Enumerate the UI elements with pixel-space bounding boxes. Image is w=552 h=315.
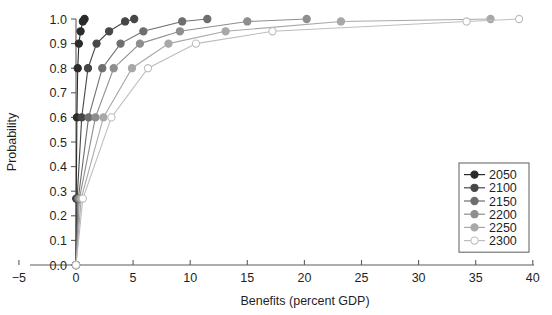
legend-marker-2100 bbox=[471, 184, 478, 191]
data-point-2100-2 bbox=[78, 114, 85, 121]
legend-marker-2150 bbox=[471, 197, 478, 204]
data-point-2200-2 bbox=[92, 114, 99, 121]
legend-label-2250: 2250 bbox=[489, 221, 517, 235]
data-point-2200-6 bbox=[244, 18, 251, 25]
legend-label-2050: 2050 bbox=[489, 168, 517, 182]
x-tick-label: 25 bbox=[355, 271, 369, 285]
data-point-2250-5 bbox=[222, 28, 229, 35]
data-point-2150-3 bbox=[99, 65, 106, 72]
x-tick-label: 20 bbox=[297, 271, 311, 285]
legend-marker-2200 bbox=[471, 211, 478, 218]
data-point-2200-7 bbox=[303, 15, 310, 22]
data-point-2200-4 bbox=[136, 40, 143, 47]
data-point-2100-5 bbox=[106, 28, 113, 35]
data-point-2300-7 bbox=[516, 15, 523, 22]
legend-label-2150: 2150 bbox=[489, 195, 517, 209]
data-point-2050-3 bbox=[74, 65, 81, 72]
data-point-2100-7 bbox=[131, 15, 138, 22]
y-tick-label: 0.7 bbox=[50, 86, 67, 100]
data-point-2300-4 bbox=[192, 40, 199, 47]
series-line-2150 bbox=[76, 19, 207, 265]
figure-caption-strip bbox=[0, 303, 552, 315]
x-tick-label: 30 bbox=[412, 271, 426, 285]
data-point-2200-3 bbox=[110, 65, 117, 72]
data-point-2300-3 bbox=[144, 65, 151, 72]
data-point-2100-6 bbox=[122, 18, 129, 25]
data-point-2200-5 bbox=[176, 28, 183, 35]
data-point-2050-7 bbox=[81, 15, 88, 22]
data-point-2250-4 bbox=[165, 40, 172, 47]
data-point-2150-5 bbox=[140, 28, 147, 35]
y-axis-title: Probability bbox=[5, 112, 19, 171]
x-tick-label: 35 bbox=[469, 271, 483, 285]
x-tick-label: 15 bbox=[240, 271, 254, 285]
data-point-2300-2 bbox=[108, 114, 115, 121]
y-tick-label: 0.5 bbox=[50, 136, 67, 150]
data-point-2250-6 bbox=[337, 18, 344, 25]
legend-label-2100: 2100 bbox=[489, 181, 517, 195]
series-2250 bbox=[72, 15, 494, 268]
legend-marker-2050 bbox=[471, 171, 478, 178]
data-point-2150-4 bbox=[117, 40, 124, 47]
y-tick-label: 0.9 bbox=[50, 37, 67, 51]
x-tick-label: 5 bbox=[130, 271, 137, 285]
series-line-2300 bbox=[76, 19, 519, 265]
data-point-2250-7 bbox=[487, 15, 494, 22]
series-2200 bbox=[72, 15, 310, 268]
series-2100 bbox=[72, 15, 137, 268]
y-tick-label: 0.6 bbox=[50, 111, 67, 125]
data-point-2150-2 bbox=[85, 114, 92, 121]
x-tick-label: 0 bbox=[73, 271, 80, 285]
x-tick-label: −5 bbox=[12, 271, 26, 285]
series-line-2100 bbox=[76, 19, 134, 265]
y-tick-label: 0.8 bbox=[50, 62, 67, 76]
series-2300 bbox=[72, 15, 522, 268]
y-tick-label: 1.0 bbox=[50, 13, 67, 27]
data-point-2150-7 bbox=[204, 15, 211, 22]
data-point-2300-0 bbox=[72, 261, 79, 268]
data-point-2100-4 bbox=[93, 40, 100, 47]
legend-marker-2250 bbox=[471, 224, 478, 231]
y-tick-label: 0.4 bbox=[50, 160, 67, 174]
data-point-2250-2 bbox=[100, 114, 107, 121]
x-tick-label: 40 bbox=[526, 271, 540, 285]
legend-marker-2300 bbox=[471, 237, 478, 244]
data-point-2050-5 bbox=[77, 28, 84, 35]
data-point-2300-1 bbox=[79, 195, 86, 202]
y-tick-label: 0.0 bbox=[50, 259, 67, 273]
x-tick-label: 10 bbox=[183, 271, 197, 285]
legend-label-2300: 2300 bbox=[489, 234, 517, 248]
data-point-2150-6 bbox=[179, 18, 186, 25]
axes: −505101520253035400.00.10.20.30.40.50.60… bbox=[5, 13, 540, 309]
data-point-2050-4 bbox=[75, 40, 82, 47]
y-tick-label: 0.1 bbox=[50, 234, 67, 248]
series-line-2200 bbox=[76, 19, 307, 265]
data-point-2300-6 bbox=[463, 18, 470, 25]
figure-container: −505101520253035400.00.10.20.30.40.50.60… bbox=[0, 0, 552, 315]
series-line-2250 bbox=[76, 19, 491, 265]
legend-label-2200: 2200 bbox=[489, 208, 517, 222]
data-point-2100-3 bbox=[84, 65, 91, 72]
data-point-2300-5 bbox=[269, 28, 276, 35]
data-point-2250-3 bbox=[128, 65, 135, 72]
series-group bbox=[72, 15, 522, 268]
y-tick-label: 0.2 bbox=[50, 209, 67, 223]
cdf-line-chart: −505101520253035400.00.10.20.30.40.50.60… bbox=[0, 0, 552, 315]
y-tick-label: 0.3 bbox=[50, 185, 67, 199]
legend: 205021002150220022502300 bbox=[459, 163, 529, 252]
